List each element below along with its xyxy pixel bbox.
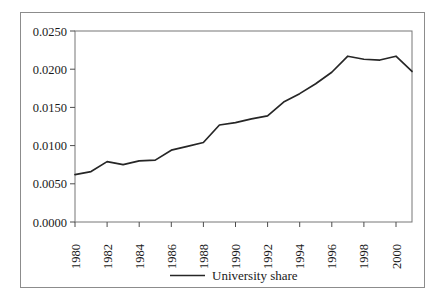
y-axis-tick-label: 0.0250: [33, 25, 67, 39]
x-axis-tick-label: 1998: [357, 244, 371, 269]
x-axis-tick-label: 1988: [197, 244, 211, 269]
x-axis-tick-label: 1996: [325, 244, 339, 269]
y-axis-tick-label: 0.0200: [33, 63, 67, 77]
legend-label-university-share: University share: [212, 268, 298, 283]
y-axis-labels: 0.0250 0.0200 0.0150 0.0100 0.0050 0.000…: [33, 25, 67, 230]
y-axis-tick-label: 0.0000: [33, 216, 67, 230]
y-axis-tick-label: 0.0150: [33, 101, 67, 115]
x-axis-tick-label: 1992: [261, 244, 275, 269]
legend: University share: [170, 268, 298, 283]
x-axis-tick-label: 1990: [229, 244, 243, 269]
y-axis-tick-label: 0.0050: [33, 177, 67, 191]
line-chart: 0.0250 0.0200 0.0150 0.0100 0.0050 0.000…: [0, 0, 444, 301]
x-axis-tick-label: 2000: [390, 244, 404, 269]
x-axis-tick-label: 1994: [293, 243, 307, 269]
x-axis-labels: 1980 1982 1984 1986 1988 1990 1992 1994 …: [69, 243, 404, 269]
x-axis-tick-label: 1986: [165, 244, 179, 269]
y-axis-tick-label: 0.0100: [33, 139, 67, 153]
x-axis-tick-label: 1984: [133, 243, 147, 269]
x-axis-tick-label: 1982: [101, 244, 115, 269]
x-axis-ticks: [75, 222, 396, 227]
figure-container: 0.0250 0.0200 0.0150 0.0100 0.0050 0.000…: [0, 0, 444, 301]
y-axis-ticks: [70, 31, 75, 222]
x-axis-tick-label: 1980: [69, 244, 83, 269]
